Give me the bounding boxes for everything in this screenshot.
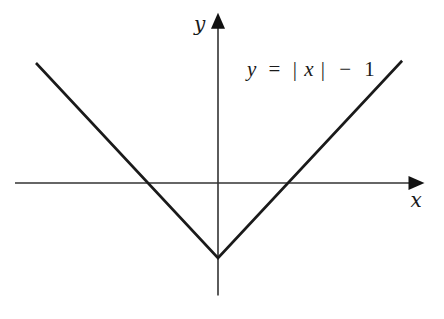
chart: x y y = | x | − 1	[0, 0, 444, 319]
series-group	[36, 61, 402, 258]
eq-abs-open: |	[293, 57, 297, 81]
axes	[15, 13, 425, 296]
x-axis-label: x	[411, 188, 422, 212]
series-line	[36, 61, 402, 258]
y-axis-label: y	[193, 12, 206, 36]
eq-minus: −	[339, 57, 351, 81]
eq-var: x	[303, 57, 314, 81]
y-axis-arrow-icon	[211, 13, 225, 29]
eq-lhs: y	[245, 57, 257, 81]
eq-abs-close: |	[321, 57, 325, 81]
eq-const: 1	[364, 57, 375, 81]
eq-equals: =	[269, 57, 281, 81]
function-label: y = | x | − 1	[245, 57, 375, 81]
